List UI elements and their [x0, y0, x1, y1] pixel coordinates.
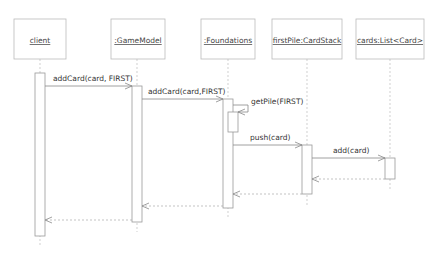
message-m4: push(card) [233, 133, 302, 145]
message-m3: getPile(FIRST) [233, 97, 303, 112]
message-label: getPile(FIRST) [251, 97, 303, 106]
message-m5: add(card) [312, 146, 385, 158]
message-label: push(card) [250, 133, 291, 142]
lifeline-label: firstPile:CardStack [273, 36, 342, 45]
message-label: addCard(card, FIRST) [53, 74, 133, 83]
activation-gamemodel [132, 86, 142, 222]
lifeline-label: :GameModel [114, 36, 161, 45]
lifeline-label: :Foundations [204, 36, 252, 45]
lifeline-label: cards:List<Card> [357, 36, 423, 45]
message-m1: addCard(card, FIRST) [45, 74, 133, 86]
activation-firstpile [302, 145, 312, 194]
sequence-diagram: client :GameModel :Foundations firstPile… [0, 0, 438, 257]
activation-cards [385, 158, 395, 179]
message-label: add(card) [333, 146, 369, 155]
message-label: addCard(card,FIRST) [148, 87, 225, 96]
activation-foundations-nested [228, 112, 238, 132]
message-m2: addCard(card,FIRST) [142, 87, 225, 99]
lifeline-label: client [30, 36, 51, 45]
activation-client [35, 73, 45, 236]
